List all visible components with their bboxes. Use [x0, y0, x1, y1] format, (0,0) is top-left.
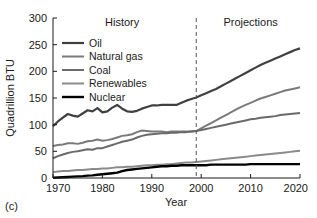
y-tick-label: 150 — [29, 92, 47, 104]
x-axis-title: Year — [165, 196, 188, 208]
y-tick-label: 300 — [29, 12, 47, 24]
panel-label: (c) — [5, 200, 18, 212]
annotation-projections: Projections — [223, 16, 278, 28]
x-tick-label: 2010 — [238, 182, 262, 194]
legend-label-nuclear: Nuclear — [89, 91, 126, 103]
legend-label-renewables: Renewables — [89, 77, 147, 89]
x-tick-label: 1980 — [90, 182, 114, 194]
x-tick-label: 2000 — [189, 182, 213, 194]
legend-label-oil: Oil — [89, 37, 102, 49]
figure-container: 197019801990200020102020 050100150200250… — [0, 0, 317, 218]
x-tick-label: 1970 — [46, 182, 70, 194]
energy-consumption-chart: 197019801990200020102020 050100150200250… — [0, 0, 317, 218]
y-tick-label: 250 — [29, 39, 47, 51]
y-axis-tick-labels: 050100150200250300 — [29, 12, 47, 184]
y-tick-label: 0 — [41, 172, 47, 184]
x-tick-label: 2020 — [284, 182, 308, 194]
y-tick-label: 100 — [29, 119, 47, 131]
y-tick-label: 200 — [29, 65, 47, 77]
y-tick-label: 50 — [35, 145, 47, 157]
annotation-history: History — [105, 16, 140, 28]
legend-label-natural-gas: Natural gas — [89, 50, 143, 62]
x-axis-tick-labels: 197019801990200020102020 — [46, 182, 308, 194]
y-axis-title: Quadrillion BTU — [4, 59, 16, 137]
x-tick-label: 1990 — [140, 182, 164, 194]
legend-label-coal: Coal — [89, 64, 111, 76]
